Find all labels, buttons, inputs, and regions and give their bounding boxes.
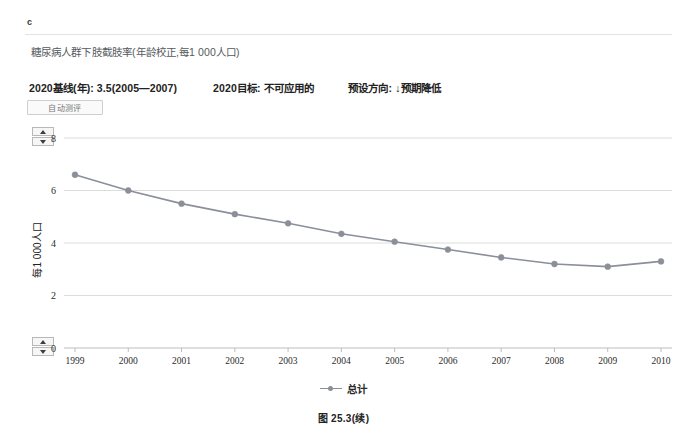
svg-text:2009: 2009	[598, 356, 617, 366]
y-axis-min-stepper[interactable]	[32, 337, 54, 356]
triangle-up-icon	[40, 130, 46, 134]
svg-text:2010: 2010	[652, 356, 671, 366]
chart-gridlines	[64, 138, 672, 348]
chart-canvas: 02468 1999200020012002200320042005200620…	[0, 0, 687, 439]
y-axis-max-stepper[interactable]	[32, 127, 54, 146]
legend-label: 总计	[347, 381, 367, 396]
triangle-down-icon	[40, 140, 46, 144]
target-value: 2020目标: 不可应用的	[213, 80, 314, 95]
line-chart: 02468 1999200020012002200320042005200620…	[0, 0, 687, 439]
desired-direction-value: 预设方向: ↓预期降低	[348, 80, 441, 95]
y-axis-tick-labels: 02468	[51, 133, 56, 354]
triangle-up-icon	[40, 340, 46, 344]
indicator-meta-row: 2020基线(年): 3.5(2005—2007) 2020目标: 不可应用的 …	[29, 80, 441, 95]
y-axis-min-increase-button[interactable]	[32, 337, 54, 346]
baseline-value: 2020基线(年): 3.5(2005—2007)	[29, 80, 177, 95]
indicator-title: 糖尿病人群下肢截肢率(年龄校正,每1 000人口)	[31, 44, 240, 59]
svg-text:1999: 1999	[66, 356, 85, 366]
svg-text:4: 4	[51, 238, 56, 249]
panel-divider	[25, 34, 672, 35]
auto-assess-button[interactable]: 自动测评	[27, 100, 103, 115]
y-axis-title: 每1 000人口	[31, 222, 43, 277]
chart-series-group	[72, 172, 664, 270]
svg-text:6: 6	[51, 185, 56, 196]
svg-text:2005: 2005	[385, 356, 404, 366]
svg-text:2008: 2008	[545, 356, 564, 366]
legend-item-total[interactable]: 总计	[320, 381, 367, 396]
svg-text:2000: 2000	[119, 356, 138, 366]
panel-letter: c	[27, 17, 32, 27]
svg-text:2006: 2006	[438, 356, 457, 366]
triangle-down-icon	[40, 350, 46, 354]
svg-text:2004: 2004	[332, 356, 351, 366]
y-axis-min-decrease-button[interactable]	[32, 347, 54, 356]
svg-text:2: 2	[51, 290, 56, 301]
figure-caption: 图 25.3(续)	[0, 410, 687, 425]
svg-text:2001: 2001	[172, 356, 191, 366]
x-axis-line	[75, 348, 661, 352]
chart-legend: 总计	[0, 381, 687, 396]
y-axis-max-increase-button[interactable]	[32, 127, 54, 136]
legend-line-marker-icon	[320, 385, 342, 392]
svg-text:2002: 2002	[225, 356, 244, 366]
svg-text:2007: 2007	[492, 356, 511, 366]
y-axis-max-decrease-button[interactable]	[32, 137, 54, 146]
x-axis-tick-labels: 1999200020012002200320042005200620072008…	[66, 356, 671, 366]
svg-text:2003: 2003	[279, 356, 298, 366]
